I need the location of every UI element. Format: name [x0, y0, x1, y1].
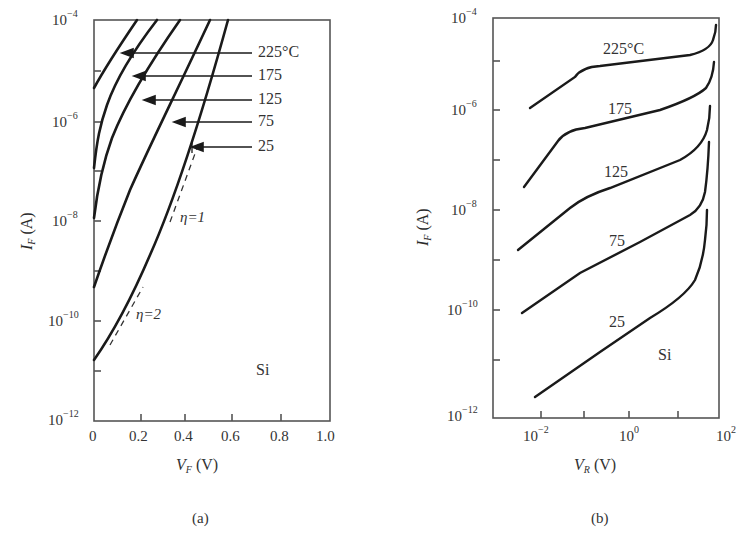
legend-a-125: 125	[258, 90, 282, 108]
ytick-a-1e-4: 10−4	[52, 10, 78, 29]
ytick-a-1e-6: 10−6	[52, 112, 78, 131]
curve-label-b-225: 225°C	[603, 40, 644, 58]
panel-b-curves	[518, 25, 716, 397]
caption-b: (b)	[591, 510, 609, 527]
xtick-a-0.2: 0.2	[129, 428, 148, 445]
ytick-b-1e-10: 10−10	[447, 300, 478, 319]
material-label-b: Si	[658, 346, 671, 364]
xtick-a-0.4: 0.4	[174, 428, 193, 445]
xlabel-a: VF (V)	[176, 456, 218, 474]
curve-label-b-175: 175	[608, 100, 632, 118]
ytick-b-1e-6: 10−6	[451, 100, 477, 119]
curve-label-b-25: 25	[609, 313, 625, 331]
curve-label-b-125: 125	[604, 163, 628, 181]
curve-225C	[530, 25, 716, 108]
ytick-b-1e-8: 10−8	[451, 200, 477, 219]
xtick-b-1e-2: 10−2	[523, 426, 549, 445]
ytick-b-1e-4: 10−4	[451, 8, 477, 27]
curve-label-b-75: 75	[609, 232, 625, 250]
ytick-a-1e-10: 10−10	[48, 311, 79, 330]
xtick-a-0.6: 0.6	[221, 428, 240, 445]
xtick-a-1.0: 1.0	[316, 428, 335, 445]
ytick-a-1e-12: 10−12	[48, 410, 79, 429]
xtick-b-1e2: 102	[716, 426, 736, 445]
legend-a-75: 75	[258, 112, 274, 130]
xtick-a-0.8: 0.8	[270, 428, 289, 445]
ytick-a-1e-8: 10−8	[52, 211, 78, 230]
panel-a-label-arrows	[122, 49, 252, 153]
xtick-b-1e0: 100	[619, 426, 639, 445]
ylabel-a: IF (A)	[18, 212, 36, 250]
eta1-label: η=1	[180, 209, 205, 226]
legend-a-175: 175	[258, 66, 282, 84]
legend-a-25: 25	[258, 137, 274, 155]
eta2-label: η=2	[136, 306, 161, 323]
ylabel-b: IF (A)	[414, 208, 432, 246]
legend-a-225: 225°C	[258, 43, 299, 61]
caption-a: (a)	[192, 510, 209, 527]
xlabel-b: VR (V)	[574, 456, 616, 474]
ytick-b-1e-12: 10−12	[447, 406, 478, 425]
curve-175	[94, 20, 157, 168]
chart-canvas	[0, 0, 747, 538]
material-label-a: Si	[256, 361, 269, 379]
xtick-a-0: 0	[89, 428, 97, 445]
